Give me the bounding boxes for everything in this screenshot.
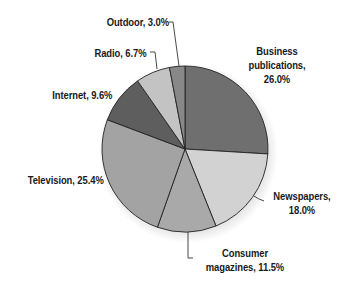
label-line: 26.0% [240, 72, 314, 86]
label-line: publications, [240, 58, 314, 72]
leader-line-outdoor [169, 22, 179, 66]
label-radio: Radio, 6.7% [94, 46, 146, 60]
label-line: Internet, 9.6% [52, 88, 112, 102]
label-television: Television, 25.4% [28, 173, 104, 187]
label-business-publications: Business publications, 26.0% [240, 44, 314, 86]
label-consumer-magazines: Consumer magazines, 11.5% [200, 246, 290, 274]
pie-chart [0, 0, 344, 286]
label-line: Business [240, 44, 314, 58]
label-line: Newspapers, [269, 189, 335, 203]
label-line: 18.0% [269, 203, 335, 217]
label-line: Outdoor, 3.0% [107, 15, 169, 29]
label-outdoor: Outdoor, 3.0% [107, 15, 169, 29]
pie-slices [102, 66, 268, 232]
label-line: Consumer [200, 246, 290, 260]
label-line: Radio, 6.7% [94, 46, 146, 60]
label-line: magazines, 11.5% [200, 260, 290, 274]
label-internet: Internet, 9.6% [52, 88, 112, 102]
leader-line-radio [150, 52, 157, 69]
label-line: Television, 25.4% [28, 173, 104, 187]
label-newspapers: Newspapers, 18.0% [269, 189, 335, 217]
